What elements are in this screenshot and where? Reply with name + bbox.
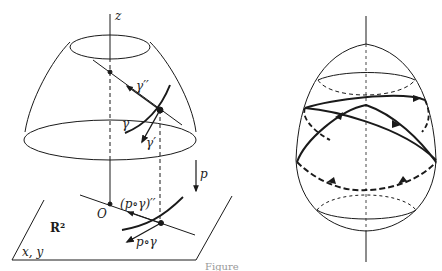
- label-plane: R²: [50, 221, 65, 235]
- axis-intersection-point: [108, 70, 112, 74]
- label-plane-coords: x, y: [22, 245, 43, 259]
- geodesic-back-lower: [297, 162, 436, 190]
- upper-circle-back: [318, 80, 415, 95]
- direction-arrow-1: [413, 95, 422, 102]
- composite-second-derivative-arrow: [128, 212, 160, 223]
- geodesic-front-d: [305, 108, 436, 160]
- label-origin: O: [97, 207, 107, 221]
- geodesic-front-b: [297, 105, 436, 162]
- upper-circle-front: [318, 73, 415, 81]
- label-gamma: γ: [122, 117, 130, 131]
- lower-circle-front: [317, 210, 416, 219]
- right-panel: [296, 16, 436, 262]
- figure-caption: Figure: [205, 261, 239, 271]
- geodesic-back-right: [422, 100, 429, 132]
- label-gamma-prime: γ′: [146, 136, 156, 150]
- label-composite-curve: p∘γ: [136, 235, 158, 249]
- left-panel: [12, 14, 232, 260]
- figure: z γ′′ γ γ′ p (p∘γ)′′ O R² p∘γ x, y: [0, 0, 442, 271]
- label-p: p: [200, 167, 208, 181]
- label-gamma-second: γ′′: [136, 79, 149, 93]
- origin-point: [108, 202, 112, 206]
- label-z: z: [114, 9, 122, 23]
- surface-bottom-rim: [24, 120, 196, 160]
- label-composite-second: (p∘γ)′′: [120, 197, 156, 211]
- lower-circle-back: [317, 195, 416, 210]
